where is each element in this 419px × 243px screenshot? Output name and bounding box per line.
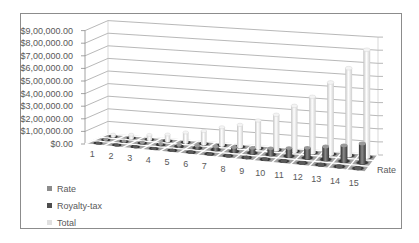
bar-rate-1[interactable] bbox=[96, 142, 101, 145]
x-axis-tick-label: 14 bbox=[330, 176, 340, 186]
x-axis-tick-label: 12 bbox=[293, 172, 303, 182]
legend-marker-total bbox=[47, 220, 52, 225]
bar-rate-5[interactable] bbox=[170, 149, 176, 152]
bar-royalty-tax-6[interactable] bbox=[194, 144, 200, 150]
x-axis-tick-label: 4 bbox=[146, 155, 151, 165]
x-axis-tick-label: 7 bbox=[202, 161, 207, 171]
bar-royalty-tax-1[interactable] bbox=[103, 138, 108, 141]
bar-rate-11[interactable] bbox=[281, 159, 287, 163]
depth-axis-label: Rate bbox=[377, 165, 396, 175]
bar-rate-12[interactable] bbox=[299, 161, 306, 165]
y-axis-tick-label: $9,00,000.00 bbox=[20, 26, 73, 36]
legend: Rate Royalty-tax Total bbox=[47, 180, 102, 231]
bar-rate-15[interactable] bbox=[354, 166, 361, 170]
bar-rate-14[interactable] bbox=[336, 165, 343, 169]
legend-marker-rate bbox=[47, 186, 52, 191]
bar-royalty-tax-12[interactable] bbox=[304, 146, 311, 160]
legend-label-total: Total bbox=[57, 218, 76, 228]
bar-rate-3[interactable] bbox=[133, 145, 138, 148]
bar-royalty-tax-5[interactable] bbox=[176, 143, 182, 148]
legend-item-royalty-tax[interactable]: Royalty-tax bbox=[47, 197, 102, 214]
bar-total-4[interactable] bbox=[165, 133, 171, 142]
bar-royalty-tax-7[interactable] bbox=[213, 145, 219, 151]
bar-total-8[interactable] bbox=[237, 123, 243, 148]
bar-total-9[interactable] bbox=[255, 119, 261, 150]
bar-royalty-tax-4[interactable] bbox=[158, 142, 164, 146]
x-axis-tick-label: 11 bbox=[274, 170, 283, 180]
y-axis-tick-label: $1,00,000.00 bbox=[20, 126, 73, 136]
x-axis-tick-label: 13 bbox=[311, 174, 321, 184]
y-axis-tick-label: $4,00,000.00 bbox=[20, 89, 73, 99]
y-axis-tick-label: $2,00,000.00 bbox=[20, 114, 73, 124]
bar-royalty-tax-3[interactable] bbox=[140, 141, 145, 145]
bar-rate-7[interactable] bbox=[207, 152, 213, 155]
bar-royalty-tax-11[interactable] bbox=[286, 146, 292, 158]
y-axis-tick-label: $0.00 bbox=[50, 139, 73, 149]
x-axis-tick-label: 1 bbox=[90, 149, 95, 159]
x-axis-tick-label: 6 bbox=[183, 159, 188, 169]
x-axis-tick-label: 3 bbox=[127, 153, 132, 163]
bar-total-11[interactable] bbox=[291, 104, 297, 153]
x-axis-tick-label: 15 bbox=[349, 178, 359, 188]
bar-total-13[interactable] bbox=[327, 81, 334, 156]
x-axis-tick-label: 10 bbox=[255, 168, 265, 178]
bar-total-1[interactable] bbox=[111, 133, 116, 138]
y-axis-tick-label: $8,00,000.00 bbox=[20, 38, 73, 48]
legend-item-rate[interactable]: Rate bbox=[47, 180, 102, 197]
bar-royalty-tax-15[interactable] bbox=[359, 142, 366, 165]
side-wall bbox=[85, 21, 108, 144]
legend-label-royalty-tax: Royalty-tax bbox=[57, 201, 102, 211]
bar-rate-10[interactable] bbox=[262, 158, 268, 162]
x-axis-tick-label: 5 bbox=[164, 157, 169, 167]
bar-total-10[interactable] bbox=[273, 113, 279, 152]
bar-total-2[interactable] bbox=[129, 133, 134, 139]
bar-rate-6[interactable] bbox=[188, 151, 194, 154]
bar-rate-9[interactable] bbox=[244, 156, 250, 159]
y-axis-tick-label: $3,00,000.00 bbox=[20, 101, 73, 111]
bar-total-14[interactable] bbox=[345, 66, 352, 157]
bar-royalty-tax-2[interactable] bbox=[121, 139, 126, 143]
x-axis-tick-label: 9 bbox=[239, 166, 244, 176]
bar-total-7[interactable] bbox=[219, 126, 225, 147]
bar-total-5[interactable] bbox=[183, 131, 189, 144]
y-axis-tick-label: $6,00,000.00 bbox=[20, 63, 73, 73]
bar-total-3[interactable] bbox=[147, 133, 152, 141]
y-axis-tick-label: $7,00,000.00 bbox=[20, 51, 73, 61]
bar-rate-4[interactable] bbox=[151, 147, 156, 150]
x-axis-tick-label: 8 bbox=[220, 164, 225, 174]
x-axis-tick-label: 2 bbox=[108, 151, 113, 161]
bar-total-12[interactable] bbox=[309, 95, 316, 155]
legend-marker-royalty-tax bbox=[47, 203, 52, 208]
legend-item-total[interactable]: Total bbox=[47, 214, 102, 231]
y-axis-tick-label: $5,00,000.00 bbox=[20, 76, 73, 86]
bar-royalty-tax-9[interactable] bbox=[249, 146, 255, 154]
bar-royalty-tax-14[interactable] bbox=[341, 143, 348, 163]
bar-royalty-tax-10[interactable] bbox=[268, 146, 274, 156]
bar-total-6[interactable] bbox=[201, 129, 207, 145]
bar-royalty-tax-8[interactable] bbox=[231, 146, 237, 153]
bar-royalty-tax-13[interactable] bbox=[322, 145, 329, 162]
bar-rate-2[interactable] bbox=[114, 144, 119, 147]
bar-rate-13[interactable] bbox=[318, 163, 325, 167]
legend-label-rate: Rate bbox=[57, 184, 76, 194]
bar-rate-8[interactable] bbox=[225, 154, 231, 157]
